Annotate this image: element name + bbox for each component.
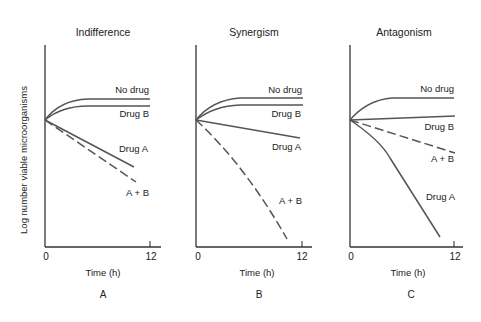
curve-drug-a [350,120,440,237]
label-drug-a: Drug A [426,191,456,202]
panel-letter: C [407,289,414,300]
label-no-drug: No drug [268,84,302,95]
label-drug-b: Drug B [271,108,301,119]
x-axis-label: Time (h) [390,267,425,278]
panel-a: Indifference 0 12 Time (h) A No drug Dru… [43,26,161,300]
x-tick-label-0: 0 [195,251,201,262]
panel-letter: B [256,289,263,300]
x-tick-label-12: 12 [145,251,157,262]
panel-title: Synergism [229,26,279,38]
label-a-plus-b: A + B [126,187,149,198]
x-tick-label-12: 12 [449,251,461,262]
label-drug-b: Drug B [424,121,454,132]
label-no-drug: No drug [420,83,454,94]
x-axis-label: Time (h) [85,267,120,278]
panel-c: Antagonism 0 12 Time (h) C No drug Drug … [348,26,463,300]
x-axis-label: Time (h) [239,267,274,278]
curve-drug-a [196,120,300,138]
x-tick-label-0: 0 [43,251,49,262]
y-axis-label: Log number viable microorganisms [18,86,29,234]
panel-b: Synergism 0 12 Time (h) B No drug Drug B… [195,26,312,300]
panel-title: Indifference [76,26,131,38]
label-drug-a: Drug A [272,141,302,152]
label-drug-a: Drug A [119,143,149,154]
x-tick-label-0: 0 [348,251,354,262]
label-drug-b: Drug B [119,108,149,119]
label-no-drug: No drug [115,84,149,95]
panel-title: Antagonism [376,26,432,38]
curve-drug-b [350,116,455,120]
curve-a-plus-b [196,120,287,239]
x-tick-label-12: 12 [296,251,308,262]
label-a-plus-b: A + B [279,195,302,206]
figure: Log number viable microorganisms Indiffe… [0,0,481,322]
label-a-plus-b: A + B [431,153,454,164]
panel-letter: A [100,289,107,300]
